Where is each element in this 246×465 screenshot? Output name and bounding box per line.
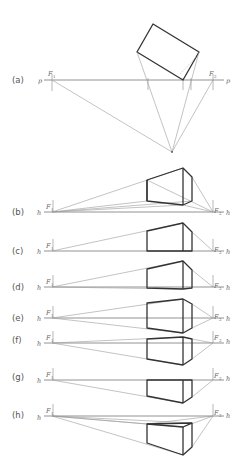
panel-label: (g) (12, 372, 24, 382)
panel-e: (e) h h F 1 F 2 (12, 299, 230, 333)
panel-label: (h) (12, 410, 24, 420)
horizon-label-right: h (226, 248, 230, 256)
horizon-label-right: h (226, 412, 230, 420)
horizon-label-right: h (226, 375, 230, 383)
object-plan-view (137, 24, 199, 80)
f2-subscript: 2 (219, 413, 222, 418)
box-outline (147, 261, 192, 289)
horizon-label-right: h (226, 315, 230, 323)
diagram-svg: (a) p p F 1 F 2 (b) h h F 1 F 2 (0, 0, 246, 465)
box-outline (147, 223, 192, 251)
panel-h: (h) h h F 1 F 2 (12, 404, 230, 455)
f2-subscript: 2 (219, 338, 222, 343)
panel-label: (a) (12, 75, 24, 85)
picture-plane-label-right: p (226, 77, 231, 85)
panel-label: (d) (12, 282, 24, 292)
horizon-label-right: h (226, 338, 230, 346)
picture-plane-label-left: p (38, 77, 43, 85)
panel-label: (c) (12, 246, 23, 256)
horizon-label-left: h (37, 414, 41, 422)
panel-label: (f) (12, 335, 22, 345)
horizon-label-right: h (226, 284, 230, 292)
f2-subscript: 2 (214, 74, 217, 79)
horizon-label-left: h (37, 248, 41, 256)
panel-label: (b) (12, 207, 24, 217)
panel-label: (e) (12, 313, 24, 323)
panel-b: (b) h h F 1 F 2 (12, 168, 230, 217)
panel-a: (a) p p F 1 F 2 (12, 24, 231, 153)
box-outline (147, 337, 192, 365)
horizon-label-left: h (37, 340, 41, 348)
box-outline (147, 299, 192, 333)
horizon-label-left: h (37, 284, 41, 292)
panel-d: (d) h h F 1 F 2 (12, 261, 230, 292)
horizon-label-left: h (37, 377, 41, 385)
station-point (171, 151, 173, 153)
panel-f: (f) h h F 1 F 2 (12, 331, 230, 365)
horizon-label-left: h (37, 315, 41, 323)
f1-subscript: 1 (53, 74, 56, 79)
box-outline (147, 168, 192, 205)
panel-c: (c) h h F 1 F 2 (12, 223, 230, 256)
horizon-label-right: h (226, 209, 230, 217)
box-outline (147, 380, 192, 403)
box-outline (147, 423, 192, 455)
panel-g: (g) h h F 1 F 2 (12, 368, 230, 403)
two-point-perspective-diagram: (a) p p F 1 F 2 (b) h h F 1 F 2 (0, 0, 246, 465)
horizon-label-left: h (37, 209, 41, 217)
